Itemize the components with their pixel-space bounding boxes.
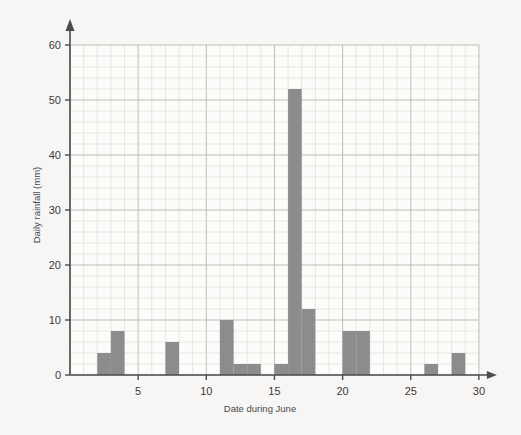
x-tick-label: 25 bbox=[405, 385, 417, 397]
y-axis-arrow bbox=[66, 19, 75, 31]
bar bbox=[234, 364, 248, 375]
x-tick-label: 20 bbox=[336, 385, 348, 397]
bar bbox=[424, 364, 438, 375]
x-axis-arrow bbox=[487, 371, 497, 379]
y-tick-label: 30 bbox=[49, 204, 61, 216]
bar bbox=[220, 320, 234, 375]
x-tick-label: 10 bbox=[200, 385, 212, 397]
y-tick-label: 60 bbox=[49, 39, 61, 51]
y-tick-label: 0 bbox=[55, 369, 61, 381]
bar bbox=[302, 309, 316, 375]
y-tick-label: 40 bbox=[49, 149, 61, 161]
bar bbox=[274, 364, 288, 375]
bar bbox=[247, 364, 261, 375]
x-tick-label: 15 bbox=[268, 385, 280, 397]
bar bbox=[356, 331, 370, 375]
bar bbox=[288, 89, 302, 375]
y-tick-label: 10 bbox=[49, 314, 61, 326]
bar bbox=[111, 331, 125, 375]
bar bbox=[165, 342, 179, 375]
rainfall-histogram-chart: 510152025300102030405060 Date during Jun… bbox=[0, 0, 521, 435]
bar bbox=[452, 353, 466, 375]
chart-canvas: 510152025300102030405060 Date during Jun… bbox=[0, 0, 521, 435]
y-tick-label: 20 bbox=[49, 259, 61, 271]
bar bbox=[97, 353, 111, 375]
x-tick-label: 30 bbox=[473, 385, 485, 397]
grid-layer bbox=[70, 45, 479, 375]
x-tick-label: 5 bbox=[135, 385, 141, 397]
y-tick-label: 50 bbox=[49, 94, 61, 106]
x-axis-title: Date during June bbox=[224, 403, 296, 414]
bar bbox=[343, 331, 357, 375]
y-axis-title: Daily rainfall (mm) bbox=[31, 167, 42, 244]
